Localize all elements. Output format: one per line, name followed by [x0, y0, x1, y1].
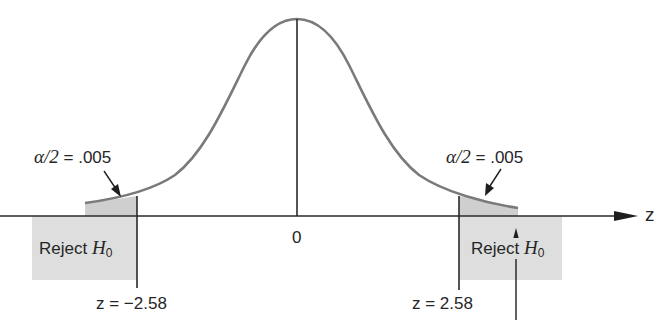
z-axis-label: z: [645, 205, 655, 224]
right-reject-label: Reject H0: [471, 238, 544, 259]
bell-curve: [85, 19, 518, 208]
left-reject-label: Reject H0: [39, 238, 112, 259]
normal-curve-diagram: [0, 0, 664, 336]
alpha-symbol: α/2: [34, 146, 59, 167]
left-alpha-arrow-icon: [111, 184, 121, 197]
right-critical-value-label: z = 2.58: [412, 295, 473, 312]
left-alpha-label: α/2 = .005: [34, 147, 111, 166]
right-alpha-arrow-icon: [485, 183, 494, 196]
alpha-symbol: α/2: [446, 146, 471, 167]
z-axis-arrowhead-icon: [614, 211, 638, 221]
right-alpha-label: α/2 = .005: [446, 147, 523, 166]
center-zero-label: 0: [292, 229, 301, 246]
left-critical-value-label: z = −2.58: [96, 295, 167, 312]
